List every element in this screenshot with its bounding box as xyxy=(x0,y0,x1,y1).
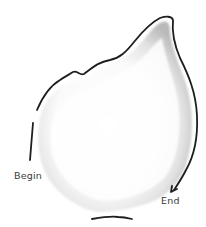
begin-label: Begin xyxy=(14,170,42,181)
bottom-tick xyxy=(92,217,132,219)
leaf-diagram xyxy=(0,0,206,227)
end-label: End xyxy=(161,195,180,206)
begin-tick xyxy=(30,123,33,160)
diagram-canvas: Begin End xyxy=(0,0,206,227)
